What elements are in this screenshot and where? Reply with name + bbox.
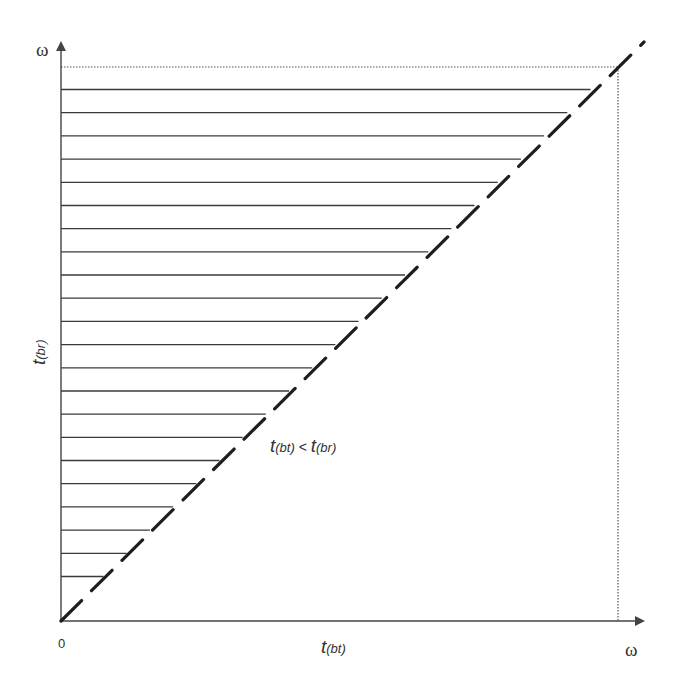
x-axis-title: t(bt) <box>321 636 346 657</box>
y-axis-omega-label: ω <box>36 39 49 60</box>
hatch-lines <box>61 90 591 577</box>
diagonal-dashed-line <box>61 42 644 621</box>
diagram-figure: ω ω 0 t(bt) t(br) t(bt) < t(br) <box>0 0 678 693</box>
origin-label: 0 <box>58 636 65 651</box>
region-annotation: t(bt) < t(br) <box>270 435 336 456</box>
x-axis-omega-label: ω <box>625 639 638 660</box>
y-axis-title: t(br) <box>28 340 49 366</box>
